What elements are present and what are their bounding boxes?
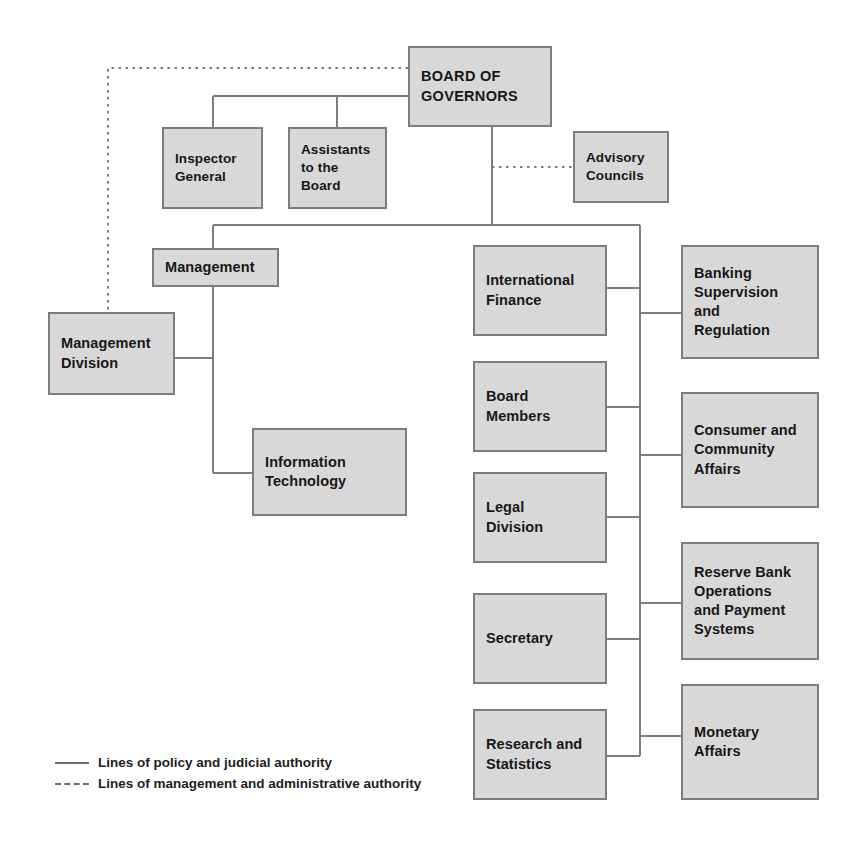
node-secretary[interactable]: Secretary — [473, 593, 607, 684]
node-management-label: Management — [154, 258, 277, 277]
node-board-members-label: Board Members — [475, 387, 605, 425]
node-international-finance[interactable]: International Finance — [473, 245, 607, 336]
node-inspector-general-label: Inspector General — [164, 150, 261, 186]
node-board-of-governors-label: BOARD OF GOVERNORS — [410, 67, 550, 105]
org-chart: BOARD OF GOVERNORS Inspector General Ass… — [0, 0, 867, 847]
node-international-finance-label: International Finance — [475, 271, 605, 309]
node-reserve-bank-operations-and-payment-systems[interactable]: Reserve Bank Operations and Payment Syst… — [681, 542, 819, 660]
node-assistants-to-the-board-label: Assistants to the Board — [290, 141, 385, 194]
node-advisory-councils[interactable]: Advisory Councils — [573, 131, 669, 203]
node-assistants-to-the-board[interactable]: Assistants to the Board — [288, 127, 387, 209]
node-board-members[interactable]: Board Members — [473, 361, 607, 452]
node-legal-division[interactable]: Legal Division — [473, 472, 607, 563]
legend-row-solid: Lines of policy and judicial authority — [55, 752, 421, 773]
node-reserve-bank-operations-and-payment-systems-label: Reserve Bank Operations and Payment Syst… — [683, 563, 817, 640]
legend-dashed-label: Lines of management and administrative a… — [98, 776, 421, 791]
legend-row-dashed: Lines of management and administrative a… — [55, 773, 421, 794]
legend: Lines of policy and judicial authority L… — [55, 752, 421, 794]
legend-solid-label: Lines of policy and judicial authority — [98, 755, 332, 770]
node-management-division-label: Management Division — [50, 334, 173, 372]
node-research-and-statistics[interactable]: Research and Statistics — [473, 709, 607, 800]
node-inspector-general[interactable]: Inspector General — [162, 127, 263, 209]
node-management[interactable]: Management — [152, 248, 279, 287]
node-consumer-and-community-affairs-label: Consumer and Community Affairs — [683, 421, 817, 478]
dashed-line-icon — [55, 783, 89, 785]
node-secretary-label: Secretary — [475, 629, 605, 648]
solid-line-icon — [55, 762, 89, 764]
node-management-division[interactable]: Management Division — [48, 312, 175, 395]
node-research-and-statistics-label: Research and Statistics — [475, 735, 605, 773]
node-monetary-affairs-label: Monetary Affairs — [683, 723, 817, 761]
node-banking-supervision-and-regulation-label: Banking Supervision and Regulation — [683, 264, 817, 341]
node-information-technology[interactable]: Information Technology — [252, 428, 407, 516]
node-advisory-councils-label: Advisory Councils — [575, 149, 667, 185]
node-consumer-and-community-affairs[interactable]: Consumer and Community Affairs — [681, 392, 819, 508]
node-monetary-affairs[interactable]: Monetary Affairs — [681, 684, 819, 800]
node-information-technology-label: Information Technology — [254, 453, 405, 491]
node-banking-supervision-and-regulation[interactable]: Banking Supervision and Regulation — [681, 245, 819, 359]
node-board-of-governors[interactable]: BOARD OF GOVERNORS — [408, 46, 552, 127]
node-legal-division-label: Legal Division — [475, 498, 605, 536]
